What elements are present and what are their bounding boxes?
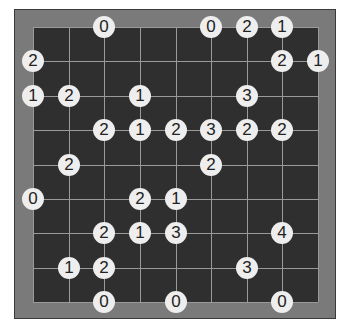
island-node[interactable]: 1 (129, 85, 151, 107)
island-node[interactable]: 2 (165, 119, 187, 141)
island-node[interactable]: 2 (22, 50, 44, 72)
island-node[interactable]: 4 (271, 222, 293, 244)
island-node[interactable]: 0 (271, 291, 293, 313)
island-node[interactable]: 0 (93, 291, 115, 313)
island-node[interactable]: 3 (165, 222, 187, 244)
island-node[interactable]: 2 (93, 222, 115, 244)
island-node[interactable]: 0 (93, 16, 115, 38)
island-node[interactable]: 2 (236, 16, 258, 38)
island-node[interactable]: 3 (236, 85, 258, 107)
island-node[interactable]: 2 (93, 257, 115, 279)
island-node[interactable]: 0 (165, 291, 187, 313)
island-node[interactable]: 1 (307, 50, 329, 72)
island-node[interactable]: 2 (93, 119, 115, 141)
island-node[interactable]: 0 (200, 16, 222, 38)
island-node[interactable]: 0 (22, 188, 44, 210)
island-node[interactable]: 2 (271, 50, 293, 72)
island-node[interactable]: 1 (165, 188, 187, 210)
island-node[interactable]: 2 (200, 154, 222, 176)
island-node[interactable]: 2 (58, 154, 80, 176)
grid-col-line (140, 27, 141, 302)
island-node[interactable]: 3 (200, 119, 222, 141)
island-node[interactable]: 3 (236, 257, 258, 279)
island-node[interactable]: 1 (22, 85, 44, 107)
island-node[interactable]: 2 (129, 188, 151, 210)
island-node[interactable]: 1 (129, 119, 151, 141)
island-node[interactable]: 1 (129, 222, 151, 244)
island-node[interactable]: 2 (271, 119, 293, 141)
grid-col-line (176, 27, 177, 302)
island-node[interactable]: 1 (271, 16, 293, 38)
island-node[interactable]: 2 (236, 119, 258, 141)
island-node[interactable]: 2 (58, 85, 80, 107)
island-node[interactable]: 1 (58, 257, 80, 279)
